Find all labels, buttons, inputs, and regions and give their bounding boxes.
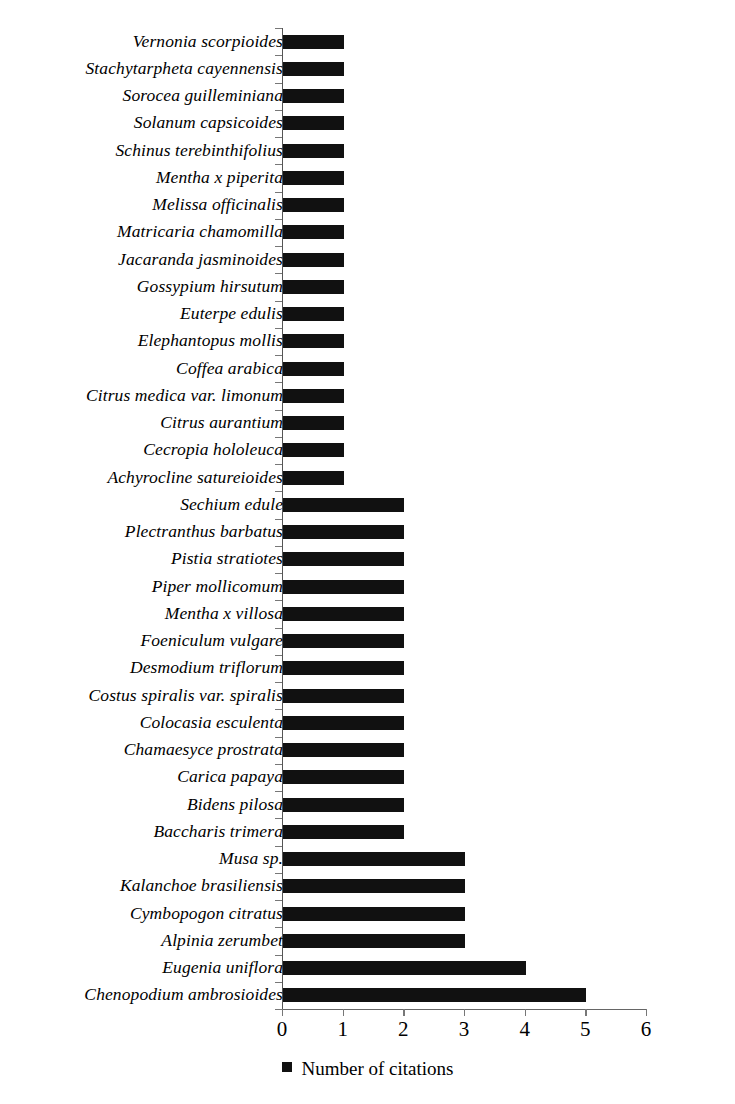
category-label: Pistia stratiotes bbox=[171, 551, 283, 569]
chart-bar-row: Schinus terebinthifolius bbox=[0, 137, 735, 164]
category-tick bbox=[275, 628, 282, 629]
category-label: Piper mollicomum bbox=[152, 578, 283, 596]
category-tick bbox=[275, 737, 282, 738]
chart-bar-row: Alpinia zerumbet bbox=[0, 927, 735, 954]
category-label: Plectranthus barbatus bbox=[125, 523, 283, 541]
value-tick bbox=[585, 1009, 586, 1016]
category-label: Bidens pilosa bbox=[187, 796, 283, 814]
chart-bar-row: Citrus aurantium bbox=[0, 410, 735, 437]
value-tick bbox=[525, 1009, 526, 1016]
plot-area: Vernonia scorpioidesStachytarpheta cayen… bbox=[0, 0, 735, 1020]
legend-entry: Number of citations bbox=[282, 1058, 454, 1078]
bar bbox=[283, 144, 344, 158]
category-tick bbox=[275, 219, 282, 220]
bar bbox=[283, 661, 404, 675]
chart-bar-row: Coffea arabica bbox=[0, 355, 735, 382]
category-label: Melissa officinalis bbox=[152, 196, 283, 214]
value-tick-label: 1 bbox=[323, 1019, 363, 1040]
category-label: Sorocea guilleminiana bbox=[123, 87, 283, 105]
bar bbox=[283, 443, 344, 457]
category-tick bbox=[275, 927, 282, 928]
chart-bar-row: Jacaranda jasminoides bbox=[0, 246, 735, 273]
bar bbox=[283, 389, 344, 403]
category-tick bbox=[275, 982, 282, 983]
category-label: Matricaria chamomilla bbox=[117, 224, 283, 242]
value-tick bbox=[646, 1009, 647, 1016]
category-tick bbox=[275, 437, 282, 438]
chart-bar-row: Mentha x villosa bbox=[0, 600, 735, 627]
category-tick bbox=[275, 519, 282, 520]
chart-bar-row: Vernonia scorpioides bbox=[0, 28, 735, 55]
category-label: Vernonia scorpioides bbox=[133, 33, 283, 51]
category-tick bbox=[275, 573, 282, 574]
bar bbox=[283, 689, 404, 703]
category-label: Baccharis trimera bbox=[153, 823, 283, 841]
bar bbox=[283, 116, 344, 130]
value-tick bbox=[343, 1009, 344, 1016]
chart-bar-row: Gossypium hirsutum bbox=[0, 273, 735, 300]
chart-bar-row: Desmodium triflorum bbox=[0, 655, 735, 682]
bar bbox=[283, 35, 344, 49]
category-tick bbox=[275, 873, 282, 874]
bar bbox=[283, 280, 344, 294]
category-label: Eugenia uniflora bbox=[162, 959, 283, 977]
chart-bar-row: Euterpe edulis bbox=[0, 301, 735, 328]
value-tick-label: 5 bbox=[565, 1019, 605, 1040]
bar bbox=[283, 634, 404, 648]
bar bbox=[283, 961, 526, 975]
legend-label: Number of citations bbox=[302, 1059, 454, 1078]
value-tick bbox=[282, 1009, 283, 1016]
bar bbox=[283, 770, 404, 784]
category-tick bbox=[275, 164, 282, 165]
bar bbox=[283, 253, 344, 267]
category-tick bbox=[275, 600, 282, 601]
bar bbox=[283, 334, 344, 348]
bar bbox=[283, 580, 404, 594]
chart-bar-row: Plectranthus barbatus bbox=[0, 519, 735, 546]
category-label: Jacaranda jasminoides bbox=[118, 251, 283, 269]
category-tick bbox=[275, 328, 282, 329]
category-tick bbox=[275, 28, 282, 29]
category-tick bbox=[275, 301, 282, 302]
chart-bar-row: Chenopodium ambrosioides bbox=[0, 982, 735, 1009]
category-tick bbox=[275, 410, 282, 411]
bar bbox=[283, 852, 465, 866]
chart-legend: Number of citations bbox=[0, 1058, 735, 1078]
category-tick bbox=[275, 818, 282, 819]
category-tick bbox=[275, 900, 282, 901]
chart-bar-row: Sechium edule bbox=[0, 491, 735, 518]
value-tick-label: 3 bbox=[444, 1019, 484, 1040]
category-tick bbox=[275, 846, 282, 847]
category-tick bbox=[275, 137, 282, 138]
category-label: Schinus terebinthifolius bbox=[115, 142, 283, 160]
category-label: Colocasia esculenta bbox=[140, 714, 283, 732]
chart-bar-row: Colocasia esculenta bbox=[0, 709, 735, 736]
chart-bar-row: Bidens pilosa bbox=[0, 791, 735, 818]
category-label: Citrus medica var. limonum bbox=[86, 387, 283, 405]
bar bbox=[283, 716, 404, 730]
category-label: Cymbopogon citratus bbox=[130, 905, 283, 923]
category-tick bbox=[275, 546, 282, 547]
category-tick bbox=[275, 55, 282, 56]
category-label: Foeniculum vulgare bbox=[140, 632, 283, 650]
chart-bar-row: Stachytarpheta cayennensis bbox=[0, 55, 735, 82]
category-label: Musa sp. bbox=[219, 850, 283, 868]
bar bbox=[283, 307, 344, 321]
category-label: Sechium edule bbox=[180, 496, 283, 514]
category-tick bbox=[275, 655, 282, 656]
chart-bar-row: Foeniculum vulgare bbox=[0, 628, 735, 655]
category-label: Costus spiralis var. spiralis bbox=[89, 687, 283, 705]
chart-bar-row: Solanum capsicoides bbox=[0, 110, 735, 137]
category-tick bbox=[275, 791, 282, 792]
bar bbox=[283, 198, 344, 212]
chart-bar-row: Chamaesyce prostrata bbox=[0, 737, 735, 764]
category-label: Mentha x piperita bbox=[156, 169, 283, 187]
category-label: Citrus aurantium bbox=[160, 414, 283, 432]
bar bbox=[283, 907, 465, 921]
category-label: Achyrocline satureioides bbox=[107, 469, 283, 487]
category-tick bbox=[275, 355, 282, 356]
bar bbox=[283, 171, 344, 185]
bar bbox=[283, 988, 586, 1002]
category-tick bbox=[275, 192, 282, 193]
category-label: Coffea arabica bbox=[176, 360, 283, 378]
